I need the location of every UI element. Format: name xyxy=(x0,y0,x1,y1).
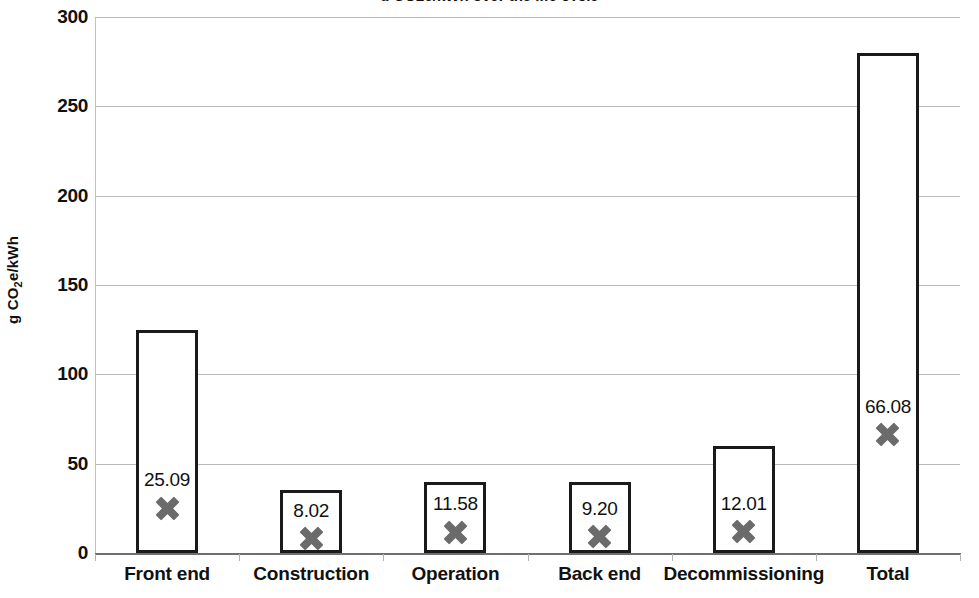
gridline xyxy=(95,106,960,107)
y-axis-tick-label: 0 xyxy=(2,542,88,564)
x-axis-tick xyxy=(95,554,96,561)
x-axis-category-label: Construction xyxy=(253,563,369,585)
data-label: 12.01 xyxy=(721,493,767,515)
y-axis-tick-label: 150 xyxy=(2,274,88,296)
data-label: 66.08 xyxy=(865,396,911,418)
plot-area xyxy=(95,17,960,553)
data-point-marker[interactable] xyxy=(731,519,756,544)
data-point-marker[interactable] xyxy=(875,422,900,447)
data-point-marker[interactable] xyxy=(587,524,612,549)
x-axis-category-label: Total xyxy=(866,563,909,585)
y-axis-tick-label: 200 xyxy=(2,185,88,207)
x-axis-tick xyxy=(672,554,673,561)
x-axis-tick xyxy=(528,554,529,561)
x-axis-tick xyxy=(960,554,961,561)
gridline xyxy=(95,17,960,18)
y-axis-tick-label: 250 xyxy=(2,95,88,117)
data-label: 8.02 xyxy=(293,500,329,522)
y-axis-tick-label: 100 xyxy=(2,363,88,385)
chart-figure: g CO2e/kWh over the life cycle g CO2e/kW… xyxy=(0,0,979,598)
y-axis-tick-label: 300 xyxy=(2,6,88,28)
data-label: 9.20 xyxy=(582,498,618,520)
x-axis-tick xyxy=(383,554,384,561)
data-label: 25.09 xyxy=(144,469,190,491)
x-axis-tick xyxy=(816,554,817,561)
y-axis-tick-labels: 050100150200250300 xyxy=(0,0,88,598)
x-axis-category-label: Decommissioning xyxy=(663,563,824,585)
x-axis-category-label: Operation xyxy=(411,563,499,585)
data-point-marker[interactable] xyxy=(443,520,468,545)
x-axis-tick xyxy=(239,554,240,561)
gridline xyxy=(95,374,960,375)
data-point-marker[interactable] xyxy=(155,496,180,521)
data-label: 11.58 xyxy=(433,493,478,515)
gridline xyxy=(95,196,960,197)
data-point-marker[interactable] xyxy=(299,526,324,551)
gridline xyxy=(95,464,960,465)
x-axis-category-label: Back end xyxy=(558,563,641,585)
y-axis-tick-label: 50 xyxy=(2,453,88,475)
x-axis-category-label: Front end xyxy=(124,563,210,585)
bar[interactable] xyxy=(857,53,919,553)
chart-title: g CO2e/kWh over the life cycle xyxy=(0,0,979,1)
gridline xyxy=(95,285,960,286)
